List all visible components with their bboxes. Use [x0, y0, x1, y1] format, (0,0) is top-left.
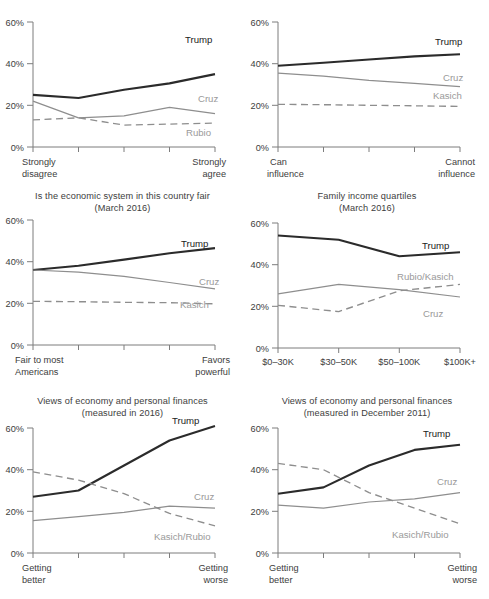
- x-axis-left-label-line1: Getting: [269, 563, 299, 573]
- x-axis-family-income: [278, 348, 460, 353]
- series-label-cruz: Cruz: [198, 93, 218, 104]
- x-axis-left-label-line2: better: [269, 575, 293, 585]
- series-label-cruz: Cruz: [423, 308, 443, 319]
- x-axis-right-label-line2: influence: [438, 169, 475, 179]
- y-tick-label: 20%: [6, 101, 24, 111]
- series-line-cruz: [278, 73, 460, 87]
- series-line-cruz: [278, 493, 460, 509]
- x-axis-can-influence: [278, 147, 460, 152]
- series-label-trump: Trump: [423, 428, 450, 439]
- x-tick-label: $50–100K: [378, 357, 421, 367]
- chart-panel-economy-2016: Views of economy and personal finances (…: [0, 390, 245, 599]
- y-tick-label: 40%: [6, 465, 24, 475]
- y-tick-label: 0%: [11, 341, 24, 351]
- y-tick-label: 0%: [256, 143, 269, 153]
- x-axis-economy-2016: [33, 553, 215, 558]
- chart-panel-economic-system-fair: Is the economic system in this country f…: [0, 185, 245, 390]
- x-axis-right-label-line1: Favors: [202, 355, 230, 365]
- chart-panel-can-influence: (March 2016) 60% 40% 20% 0%: [245, 0, 489, 185]
- chart-panel-family-income: Family income quartiles (March 2016) 60%…: [245, 185, 489, 390]
- series-label-kasich: Kasich: [180, 299, 209, 310]
- y-axis-family-income: 60% 40% 20% 0%: [251, 219, 278, 354]
- series-label-rubio-kasich: Rubio/Kasich: [397, 271, 454, 282]
- x-axis-right-label-line2: worse: [451, 575, 477, 585]
- y-tick-label: 20%: [6, 299, 24, 309]
- x-tick-label: $30–50K: [320, 357, 358, 367]
- x-axis-right-label-line2: agree: [203, 169, 227, 179]
- x-axis-economy-2011: [278, 553, 460, 558]
- series-label-trump: Trump: [185, 34, 212, 45]
- x-axis-right-label-line1: Cannot: [445, 157, 475, 167]
- chart-svg-family-income: 60% 40% 20% 0% Trump Rubio/Kasich Cruz $…: [245, 185, 489, 390]
- y-tick-label: 0%: [256, 344, 269, 354]
- chart-svg-can-influence: 60% 40% 20% 0% Trump Cruz Kasich Can inf…: [245, 0, 489, 185]
- series-line-trump: [278, 54, 460, 66]
- series-line-cruz: [33, 101, 215, 118]
- y-tick-label: 40%: [251, 260, 269, 270]
- chart-svg-economic-system-fair: 60% 40% 20% 0% Trump Cruz Kasich Fair to…: [0, 185, 245, 390]
- x-axis-left-label-line1: Fair to most: [15, 355, 64, 365]
- series-line-trump: [33, 426, 215, 497]
- y-tick-label: 60%: [251, 18, 269, 28]
- chart-svg-government-influence: 60% 40% 20% 0% Trump Cruz Rubio Strongly…: [0, 0, 245, 185]
- chart-title-economy-2011: Views of economy and personal finances (…: [245, 396, 489, 419]
- y-axis-economy-2011: 60% 40% 20% 0%: [251, 424, 278, 559]
- series-line-trump: [278, 445, 460, 494]
- series-label-trump: Trump: [181, 238, 208, 249]
- series-line-cruz: [33, 270, 215, 289]
- y-tick-label: 20%: [251, 507, 269, 517]
- series-label-cruz: Cruz: [437, 476, 457, 487]
- y-axis-economic-system-fair: 60% 40% 20% 0%: [6, 216, 33, 351]
- series-label-kasich: Kasich: [433, 90, 462, 101]
- series-label-cruz: Cruz: [194, 491, 214, 502]
- y-tick-label: 60%: [251, 424, 269, 434]
- series-label-trump: Trump: [435, 36, 462, 47]
- series-label-kasich-rubio: Kasich/Rubio: [154, 531, 211, 542]
- y-tick-label: 0%: [11, 143, 24, 153]
- x-axis-left-label-line2: disagree: [22, 169, 57, 179]
- series-label-cruz: Cruz: [199, 276, 219, 287]
- x-axis-right-label-line2: powerful: [195, 367, 230, 377]
- series-label-cruz: Cruz: [443, 72, 463, 83]
- x-axis-left-label-line2: Americans: [15, 367, 59, 377]
- chart-title-economic-system-fair: Is the economic system in this country f…: [0, 191, 245, 214]
- x-axis-left-label-line1: Getting: [22, 563, 52, 573]
- x-axis-left-label-line2: better: [22, 575, 46, 585]
- series-line-kasich-rubio: [278, 463, 460, 523]
- y-axis-economy-2016: 60% 40% 20% 0%: [6, 424, 33, 559]
- small-multiples-grid: the government does (December 2015) 60% …: [0, 0, 489, 599]
- series-line-trump: [33, 74, 215, 98]
- series-label-trump: Trump: [422, 240, 449, 251]
- y-tick-label: 60%: [6, 424, 24, 434]
- series-line-trump: [33, 248, 215, 270]
- x-axis-right-label-line1: Strongly: [192, 157, 226, 167]
- series-line-kasich: [278, 104, 460, 106]
- y-tick-label: 0%: [11, 549, 24, 559]
- y-tick-label: 20%: [6, 507, 24, 517]
- x-axis-left-label-line1: Strongly: [22, 157, 56, 167]
- chart-title-government-influence: the government does (December 2015): [0, 0, 245, 1]
- chart-svg-economy-2011: 60% 40% 20% 0% Trump Cruz Kasich/Rubio G…: [245, 390, 489, 599]
- x-axis-right-label-line1: Getting: [198, 563, 228, 573]
- y-tick-label: 40%: [251, 465, 269, 475]
- y-tick-label: 40%: [6, 59, 24, 69]
- y-tick-label: 40%: [6, 257, 24, 267]
- chart-panel-economy-2011: Views of economy and personal finances (…: [245, 390, 489, 599]
- x-tick-label: $100K+: [444, 357, 476, 367]
- series-line-rubio: [33, 118, 215, 125]
- y-tick-label: 60%: [6, 216, 24, 226]
- y-tick-label: 0%: [256, 549, 269, 559]
- y-axis-can-influence: 60% 40% 20% 0%: [251, 18, 278, 153]
- chart-svg-economy-2016: 60% 40% 20% 0% Trump Cruz Kasich/Rubio G…: [0, 390, 245, 599]
- x-axis-government-influence: [33, 147, 215, 152]
- y-tick-label: 60%: [251, 219, 269, 229]
- x-axis-economic-system-fair: [33, 345, 215, 350]
- y-tick-label: 60%: [6, 18, 24, 28]
- series-label-rubio: Rubio: [186, 127, 211, 138]
- x-tick-label: $0–30K: [262, 357, 295, 367]
- x-axis-right-label-line2: worse: [202, 575, 228, 585]
- y-axis-government-influence: 60% 40% 20% 0%: [6, 18, 33, 153]
- chart-title-family-income: Family income quartiles (March 2016): [245, 191, 489, 214]
- chart-title-can-influence: (March 2016): [245, 0, 489, 1]
- y-tick-label: 20%: [251, 101, 269, 111]
